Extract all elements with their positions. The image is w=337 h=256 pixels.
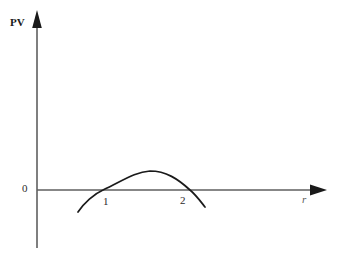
figure-canvas: PV 0 1 2 r xyxy=(0,0,337,256)
axes-group xyxy=(32,10,327,248)
x-axis-label: r xyxy=(302,194,306,205)
x-axis-arrowhead xyxy=(310,185,327,196)
x-axis-tick-2: 2 xyxy=(180,195,186,206)
pv-curve xyxy=(78,171,205,212)
x-axis-tick-1: 1 xyxy=(103,196,109,207)
y-axis-arrowhead xyxy=(32,10,42,28)
y-axis-tick-zero: 0 xyxy=(22,183,28,194)
y-axis-label: PV xyxy=(10,17,25,28)
plot-area xyxy=(0,0,337,256)
curve-group xyxy=(78,171,205,212)
